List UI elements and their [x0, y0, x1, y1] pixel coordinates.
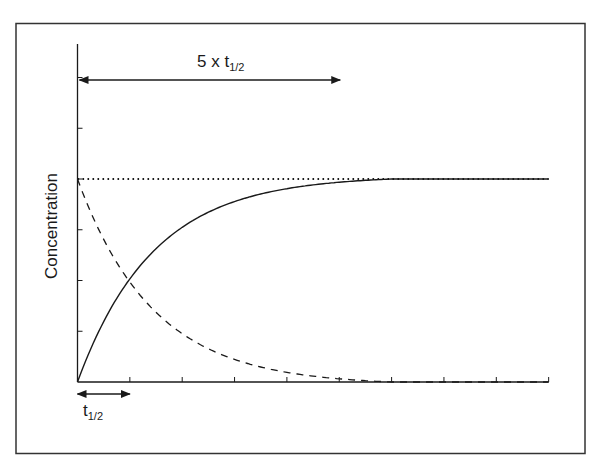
half-life-label: t1/2 [83, 401, 103, 422]
elimination-curve [78, 179, 549, 382]
accumulation-curve [78, 179, 549, 382]
five-half-lives-text: 5 x t [197, 52, 229, 71]
chart-frame [16, 24, 585, 454]
half-life-subscript: 1/2 [229, 61, 244, 73]
five-half-lives-label: 5 x t1/2 [197, 52, 244, 73]
chart-canvas [0, 0, 602, 456]
half-life-subscript: 1/2 [88, 410, 103, 422]
axes [78, 44, 549, 382]
series-layer [78, 179, 549, 382]
annotations [78, 80, 341, 394]
y-axis-label: Concentration [42, 173, 62, 279]
